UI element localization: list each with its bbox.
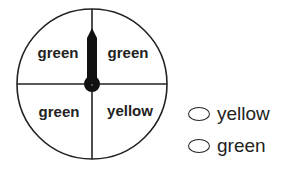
radio-oval-icon[interactable] [188, 107, 210, 121]
option-label: yellow [217, 103, 270, 125]
spinner-diagram: green green green yellow [0, 0, 180, 176]
radio-oval-icon[interactable] [188, 139, 210, 153]
sector-label-top-right: green [108, 44, 149, 61]
option-yellow[interactable]: yellow [188, 98, 270, 130]
option-label: green [217, 135, 266, 157]
sector-label-top-left: green [38, 44, 79, 61]
option-green[interactable]: green [188, 130, 270, 162]
answer-options: yellow green [188, 98, 270, 162]
sector-label-bottom-right: yellow [107, 102, 153, 119]
sector-label-bottom-left: green [39, 103, 80, 120]
